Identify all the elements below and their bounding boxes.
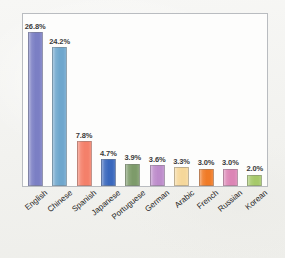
bar[interactable] (174, 167, 189, 186)
category-label-text: Arabic (173, 189, 196, 210)
bar-group: 24.2% (52, 14, 67, 186)
bar-group: 3.6% (150, 14, 165, 186)
bar-group: 4.7% (101, 14, 116, 186)
bar[interactable] (247, 175, 262, 186)
bar-group: 3.0% (199, 14, 214, 186)
category-label-text: Korean (244, 189, 269, 212)
bar-group: 3.9% (125, 14, 140, 186)
bar-group: 26.8% (28, 14, 43, 186)
bar-value-label: 7.8% (76, 132, 93, 140)
bar[interactable] (52, 47, 67, 186)
category-label-russian: Russian (217, 189, 244, 214)
category-label-arabic: Arabic (173, 189, 196, 210)
bar[interactable] (28, 32, 43, 186)
category-label-text: German (144, 189, 171, 214)
category-label-german: German (144, 189, 171, 214)
bar-value-label: 24.2% (49, 38, 70, 46)
category-label-korean: Korean (244, 189, 269, 212)
bar-value-label: 3.6% (149, 156, 166, 164)
bar[interactable] (101, 159, 116, 186)
bar-value-label: 4.7% (100, 150, 117, 158)
bar[interactable] (125, 164, 140, 186)
category-label-chinese: Chinese (46, 189, 74, 214)
bars-container: 26.8%24.2%7.8%4.7%3.9%3.6%3.3%3.0%3.0%2.… (23, 14, 267, 186)
bar-value-label: 3.0% (222, 159, 239, 167)
bar-value-label: 3.3% (173, 158, 190, 166)
bar-value-label: 2.0% (246, 165, 263, 173)
bar-group: 3.3% (174, 14, 189, 186)
bar-group: 3.0% (223, 14, 238, 186)
bar-group: 7.8% (77, 14, 92, 186)
bar-value-label: 3.0% (198, 159, 215, 167)
category-label-english: English (24, 189, 49, 212)
bar-value-label: 3.9% (124, 154, 141, 162)
category-label-text: Russian (217, 189, 244, 214)
bar[interactable] (77, 141, 92, 186)
category-axis: EnglishChineseSpanishJapanesePortugueseG… (23, 189, 267, 249)
bar[interactable] (223, 169, 238, 186)
category-label-text: Chinese (46, 189, 74, 214)
bar-group: 2.0% (247, 14, 262, 186)
bar-chart-figure: 26.8%24.2%7.8%4.7%3.9%3.6%3.3%3.0%3.0%2.… (0, 0, 285, 258)
bar[interactable] (199, 169, 214, 186)
category-label-text: English (24, 189, 49, 212)
bar[interactable] (150, 165, 165, 186)
bar-value-label: 26.8% (25, 23, 46, 31)
